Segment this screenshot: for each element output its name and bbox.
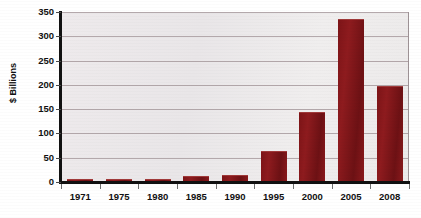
y-tick-mark — [56, 109, 61, 110]
bar-chart: $ Billions 050100150200250300350 1971197… — [0, 0, 421, 218]
x-tick-label: 1971 — [58, 192, 102, 202]
y-tick-label: 350 — [22, 7, 54, 17]
y-axis-title: $ Billions — [8, 48, 18, 118]
x-axis-line — [59, 181, 410, 184]
bar — [299, 112, 325, 182]
y-tick-mark — [56, 12, 61, 13]
y-tick-mark — [56, 133, 61, 134]
x-tick-label: 2008 — [368, 192, 412, 202]
x-tick-mark — [370, 184, 371, 189]
y-tick-label: 50 — [22, 153, 54, 163]
y-tick-mark — [56, 158, 61, 159]
x-tick-label: 2005 — [329, 192, 373, 202]
x-tick-label: 2000 — [290, 192, 334, 202]
y-tick-label: 0 — [22, 177, 54, 187]
x-tick-mark — [332, 184, 333, 189]
x-tick-mark — [138, 184, 139, 189]
y-axis-tick-labels: 050100150200250300350 — [22, 0, 54, 218]
x-tick-mark — [216, 184, 217, 189]
x-tick-mark — [61, 184, 62, 189]
y-tick-label: 250 — [22, 56, 54, 66]
x-tick-label: 1995 — [252, 192, 296, 202]
x-tick-mark — [293, 184, 294, 189]
plot-area — [61, 12, 409, 182]
y-tick-mark — [56, 85, 61, 86]
y-tick-label: 100 — [22, 129, 54, 139]
x-tick-label: 1980 — [136, 192, 180, 202]
x-tick-mark — [409, 184, 410, 189]
bar — [261, 151, 287, 182]
x-tick-mark — [254, 184, 255, 189]
x-tick-mark — [100, 184, 101, 189]
y-tick-label: 300 — [22, 32, 54, 42]
plot-right-border — [408, 12, 409, 182]
bar — [338, 19, 364, 182]
y-tick-mark — [56, 36, 61, 37]
y-tick-label: 200 — [22, 80, 54, 90]
y-tick-mark — [56, 182, 61, 183]
y-tick-label: 150 — [22, 104, 54, 114]
gridline — [61, 12, 409, 13]
bar — [377, 86, 403, 182]
x-tick-mark — [177, 184, 178, 189]
x-tick-label: 1985 — [174, 192, 218, 202]
y-tick-mark — [56, 61, 61, 62]
x-tick-label: 1975 — [97, 192, 141, 202]
x-tick-label: 1990 — [213, 192, 257, 202]
